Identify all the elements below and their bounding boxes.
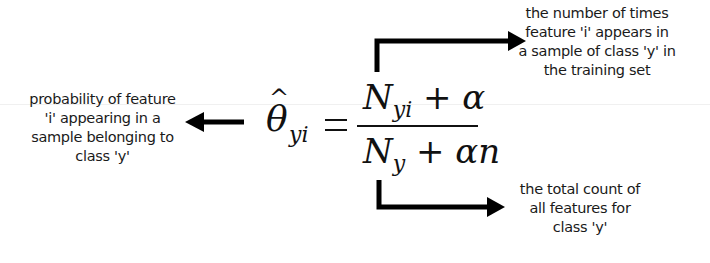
theta-subscript: yi bbox=[289, 122, 308, 147]
left-annotation: probability of feature 'i' appearing in … bbox=[0, 90, 205, 166]
bottom-elbow-arrow-icon bbox=[379, 180, 505, 217]
equals-sign bbox=[325, 120, 347, 130]
top-elbow-arrow-icon bbox=[377, 31, 526, 72]
bottom-right-annotation: the total count of all features for clas… bbox=[505, 180, 655, 237]
top-right-annotation: the number of times feature 'i' appears … bbox=[512, 4, 682, 80]
numerator: Nyi + α bbox=[363, 77, 485, 117]
denominator: Ny + αn bbox=[363, 131, 500, 171]
hat-accent: ^ bbox=[269, 84, 289, 112]
